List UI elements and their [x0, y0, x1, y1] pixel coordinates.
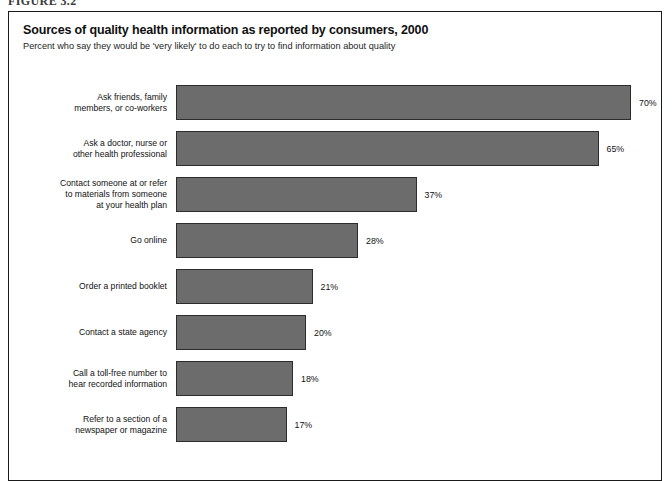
- chart-title: Sources of quality health information as…: [23, 23, 649, 37]
- bar-track: 20%: [176, 315, 651, 350]
- bar-value-label: 20%: [314, 328, 332, 338]
- bar-value-label: 65%: [607, 144, 625, 154]
- bar-row: Contact someone at or refer to materials…: [9, 172, 661, 218]
- bar-value-label: 18%: [301, 374, 319, 384]
- bar-track: 17%: [176, 407, 651, 442]
- bar-category-label: Contact someone at or refer to materials…: [0, 178, 167, 212]
- bar-row: Order a printed booklet 21%: [9, 264, 661, 310]
- bar-row: Ask a doctor, nurse or other health prof…: [9, 126, 661, 172]
- bar-value-label: 70%: [639, 98, 657, 108]
- bar-category-label: Refer to a section of a newspaper or mag…: [0, 414, 167, 436]
- bar-track: 18%: [176, 361, 651, 396]
- bar-category-label: Order a printed booklet: [0, 281, 167, 292]
- figure-caption: FIGURE 3.2: [8, 0, 77, 7]
- bar-chart-plot-area: Ask friends, family members, or co-worke…: [9, 80, 661, 448]
- chart-header: Sources of quality health information as…: [23, 23, 649, 52]
- figure-frame: Sources of quality health information as…: [8, 11, 662, 481]
- bar-value-label: 17%: [295, 420, 313, 430]
- bar-row: Go online 28%: [9, 218, 661, 264]
- bar-category-label: Call a toll-free number to hear recorded…: [0, 368, 167, 390]
- bar-value-label: 37%: [425, 190, 443, 200]
- bar-fill: 37%: [176, 177, 417, 212]
- bar-track: 70%: [176, 85, 651, 120]
- bar-row: Call a toll-free number to hear recorded…: [9, 356, 661, 402]
- bar-category-label: Ask a doctor, nurse or other health prof…: [0, 138, 167, 160]
- bar-fill: 28%: [176, 223, 358, 258]
- chart-subtitle: Percent who say they would be 'very like…: [23, 40, 649, 52]
- bar-track: 21%: [176, 269, 651, 304]
- bar-value-label: 21%: [321, 282, 339, 292]
- bar-fill: 18%: [176, 361, 293, 396]
- bar-row: Refer to a section of a newspaper or mag…: [9, 402, 661, 448]
- bar-fill: 70%: [176, 85, 631, 120]
- bar-category-label: Ask friends, family members, or co-worke…: [0, 92, 167, 114]
- bar-fill: 21%: [176, 269, 313, 304]
- bar-fill: 17%: [176, 407, 287, 442]
- bar-track: 37%: [176, 177, 651, 212]
- bar-fill: 65%: [176, 131, 599, 166]
- bar-track: 28%: [176, 223, 651, 258]
- bar-value-label: 28%: [366, 236, 384, 246]
- bar-fill: 20%: [176, 315, 306, 350]
- bar-category-label: Contact a state agency: [0, 327, 167, 338]
- bar-row: Ask friends, family members, or co-worke…: [9, 80, 661, 126]
- bar-track: 65%: [176, 131, 651, 166]
- bar-category-label: Go online: [0, 235, 167, 246]
- bar-row: Contact a state agency 20%: [9, 310, 661, 356]
